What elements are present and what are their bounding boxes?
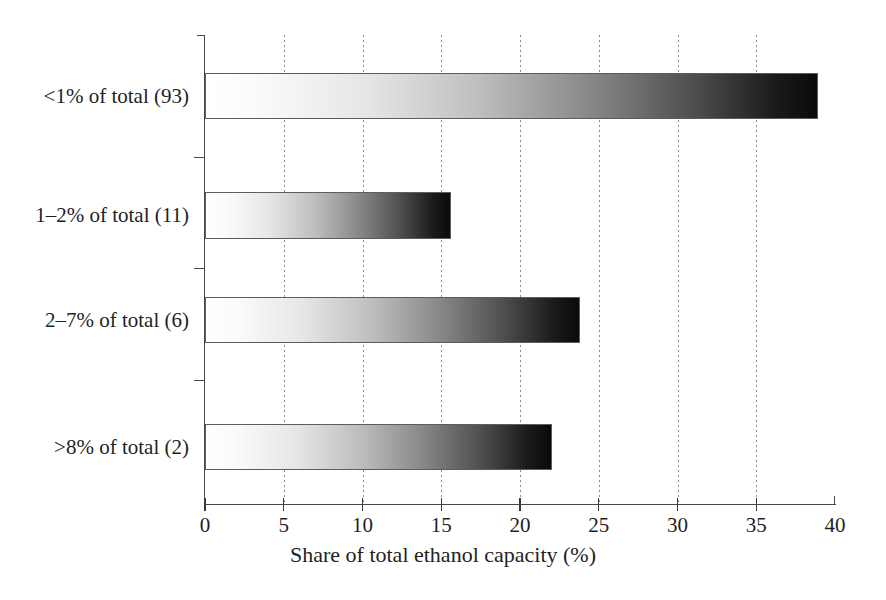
x-axis-tick-label-15: 15 xyxy=(411,512,471,538)
x-tick-0 xyxy=(204,498,205,511)
y-axis-label-1: 1–2% of total (11) xyxy=(35,203,189,227)
y-tick-3 xyxy=(194,380,205,381)
x-axis-tick-label-40: 40 xyxy=(805,512,865,538)
bar-3[interactable] xyxy=(205,424,552,470)
x-axis-tick-label-25: 25 xyxy=(569,512,629,538)
x-tick-30 xyxy=(677,498,678,511)
x-axis-tick-label-30: 30 xyxy=(648,512,708,538)
y-tick-1 xyxy=(194,157,205,158)
plot-area xyxy=(205,35,835,505)
x-axis-title: Share of total ethanol capacity (%) xyxy=(0,541,886,569)
bar-1[interactable] xyxy=(205,192,451,239)
y-axis-line xyxy=(204,35,205,505)
x-axis-tick-label-5: 5 xyxy=(254,512,314,538)
x-tick-20 xyxy=(519,498,520,511)
x-axis-tick-label-0: 0 xyxy=(175,512,235,538)
x-tick-25 xyxy=(598,498,599,511)
x-axis-tick-label-20: 20 xyxy=(490,512,550,538)
x-axis-right-cap xyxy=(834,496,835,505)
y-axis-label-2: 2–7% of total (6) xyxy=(45,308,189,332)
y-axis-label-3: >8% of total (2) xyxy=(54,435,189,459)
x-tick-35 xyxy=(756,498,757,511)
y-tick-2 xyxy=(194,268,205,269)
y-axis-label-0: <1% of total (93) xyxy=(44,84,189,108)
bar-0[interactable] xyxy=(205,73,818,119)
x-axis-tick-label-35: 35 xyxy=(726,512,786,538)
x-tick-15 xyxy=(441,498,442,511)
bar-chart: <1% of total (93) 1–2% of total (11) 2–7… xyxy=(0,0,886,600)
bar-2[interactable] xyxy=(205,297,580,343)
x-tick-10 xyxy=(362,498,363,511)
y-axis-top-cap xyxy=(197,35,205,36)
x-axis-tick-label-10: 10 xyxy=(333,512,393,538)
x-tick-5 xyxy=(283,498,284,511)
